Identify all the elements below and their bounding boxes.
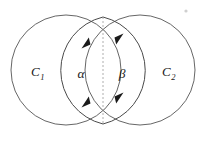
right-circle-label-subscript: 2: [171, 72, 176, 82]
right-arc-top-arrow-icon: [115, 34, 124, 45]
stray-dot-mark: [184, 9, 187, 12]
left-circle: [11, 15, 121, 125]
left-circle-label-text: C: [31, 64, 40, 79]
left-arc-bottom-arrow-icon: [82, 97, 91, 108]
right-circle-label: C2: [162, 64, 176, 82]
venn-diagram-canvas: C1 C2 α β: [0, 0, 205, 141]
beta-region-label: β: [118, 66, 126, 81]
left-circle-label: C1: [31, 64, 44, 82]
alpha-region-label: α: [77, 66, 85, 81]
right-circle: [85, 15, 195, 125]
figure-root: C1 C2 α β: [0, 0, 205, 141]
left-arc-top-arrow-icon: [82, 38, 91, 49]
left-circle-label-subscript: 1: [40, 72, 44, 82]
right-circle-label-text: C: [162, 64, 171, 79]
